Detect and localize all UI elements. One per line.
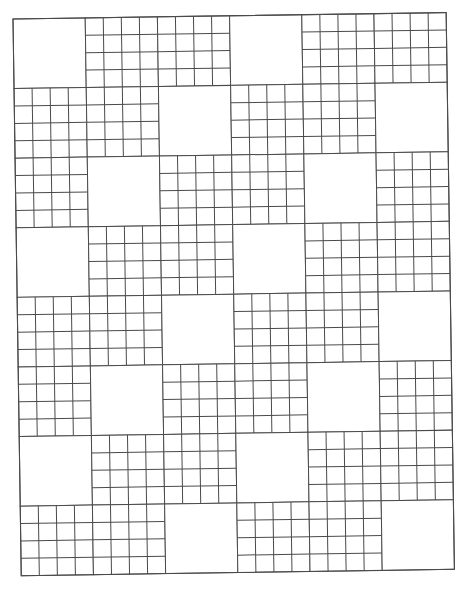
grid-block xyxy=(232,154,305,225)
grid-block xyxy=(306,292,379,363)
blank-block xyxy=(307,362,380,433)
grid-block xyxy=(380,430,453,501)
grid-block xyxy=(91,434,164,505)
blank-block xyxy=(162,294,235,365)
grid-block xyxy=(309,501,382,572)
blank-block xyxy=(87,156,160,227)
grid-block xyxy=(303,83,376,154)
grid-block xyxy=(377,221,450,292)
blank-block xyxy=(158,85,231,156)
grid-block xyxy=(164,433,237,504)
grid-block xyxy=(163,364,236,435)
blank-block xyxy=(19,435,92,506)
grid-block xyxy=(92,504,165,575)
grid-block xyxy=(88,226,161,297)
grid-block xyxy=(85,17,158,88)
blank-block xyxy=(236,432,309,503)
blank-block xyxy=(378,291,451,362)
grid-paper-page xyxy=(0,0,472,591)
blank-block xyxy=(230,15,303,86)
grid-block xyxy=(231,84,304,155)
blank-block xyxy=(165,503,238,574)
grid-block xyxy=(159,155,232,226)
grid-block xyxy=(15,157,88,228)
grid-group xyxy=(13,13,454,576)
grid-block xyxy=(376,152,449,223)
grid-block xyxy=(17,296,90,367)
grid-block xyxy=(237,502,310,573)
grid-block xyxy=(20,505,93,576)
grid-block xyxy=(302,14,375,85)
grid-block xyxy=(14,88,87,159)
grid-block xyxy=(374,13,447,84)
grid-block xyxy=(89,295,162,366)
blank-block xyxy=(90,365,163,436)
grid-block xyxy=(379,361,452,432)
blank-block xyxy=(13,18,86,89)
grid-block xyxy=(157,16,230,87)
grid-block xyxy=(86,86,159,157)
grid-block xyxy=(234,293,307,364)
grid-block xyxy=(18,366,91,437)
grid-block xyxy=(235,363,308,434)
blank-block xyxy=(233,223,306,294)
patterned-grid xyxy=(0,0,472,591)
grid-block xyxy=(308,431,381,502)
blank-block xyxy=(381,500,454,571)
grid-block xyxy=(160,225,233,296)
blank-block xyxy=(16,227,89,298)
blank-block xyxy=(304,153,377,224)
grid-block xyxy=(305,222,378,293)
blank-block xyxy=(375,82,448,153)
